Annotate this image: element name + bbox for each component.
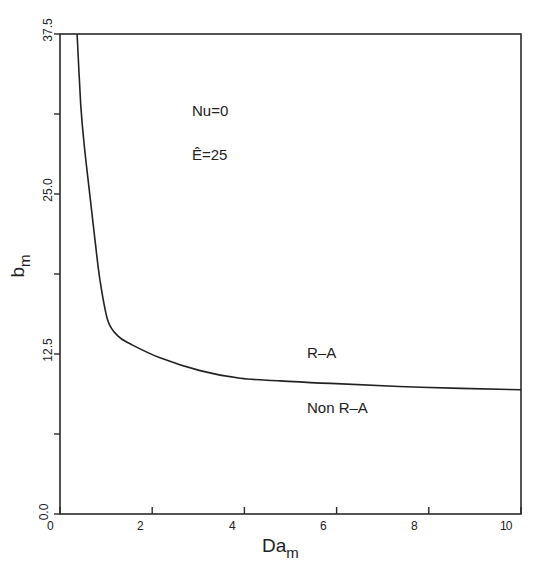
x-tick-label-4: 4	[229, 519, 236, 533]
x-tick-label-0: 0	[47, 519, 54, 533]
x-axis-title: Dam	[262, 535, 299, 557]
plot-frame	[60, 34, 521, 514]
y-axis-title-main: b	[7, 267, 28, 278]
x-tick-label-6: 6	[320, 519, 327, 533]
y-tick-label-25: 25.0	[41, 178, 55, 201]
chart-canvas	[0, 0, 536, 574]
y-axis-title: bm	[7, 254, 29, 277]
annotation-r-a-region: R–A	[307, 344, 336, 361]
y-axis-ticks	[54, 34, 60, 514]
x-axis-title-main: Da	[262, 535, 286, 556]
annotation-non-r-a-region: Non R–A	[307, 399, 368, 416]
annotation-e-hat: Ê=25	[192, 146, 227, 163]
x-axis-title-sub: m	[286, 544, 299, 561]
x-tick-label-2: 2	[137, 519, 144, 533]
y-tick-label-0: 0.0	[37, 504, 51, 521]
x-axis-ticks	[60, 507, 521, 514]
stability-curve	[77, 34, 521, 390]
y-axis-title-sub: m	[16, 254, 33, 267]
y-tick-label-12.5: 12.5	[41, 338, 55, 361]
y-tick-label-37.5: 37.5	[41, 18, 55, 41]
annotation-nusselt: Nu=0	[192, 102, 228, 119]
x-tick-label-8: 8	[411, 519, 418, 533]
x-tick-label-10: 10	[500, 519, 511, 533]
